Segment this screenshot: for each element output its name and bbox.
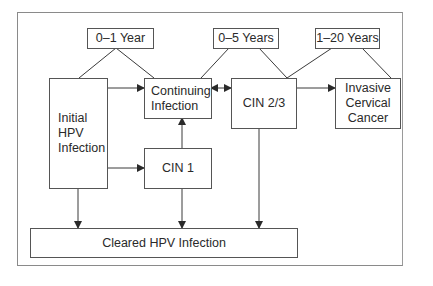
time-label-1-20-years: 1–20 Years [315, 28, 380, 49]
node-cin-2-3: CIN 2/3 [231, 78, 297, 129]
node-invasive-cervical-cancer: Invasive Cervical Cancer [335, 78, 401, 129]
time-label-text: 0–5 Years [218, 31, 274, 46]
node-initial-hpv-infection: Initial HPV Infection [49, 78, 108, 189]
node-label: CIN 1 [162, 161, 194, 176]
node-label: Invasive Cervical Cancer [345, 81, 391, 126]
node-continuing-infection: Continuing Infection [144, 78, 212, 119]
node-label: CIN 2/3 [243, 96, 285, 111]
time-label-text: 1–20 Years [316, 31, 379, 46]
time-label-0-5-years: 0–5 Years [213, 28, 279, 49]
node-label: Initial HPV Infection [58, 111, 105, 156]
time-label-0-1-year: 0–1 Year [87, 28, 154, 49]
node-cleared-hpv-infection: Cleared HPV Infection [30, 228, 298, 258]
time-label-text: 0–1 Year [96, 31, 145, 46]
node-label: Cleared HPV Infection [102, 236, 226, 251]
node-label: Continuing Infection [151, 84, 211, 114]
node-cin-1: CIN 1 [144, 148, 212, 189]
